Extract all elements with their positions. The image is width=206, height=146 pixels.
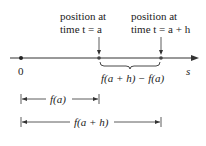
label-position-a-line2: time t = a: [60, 23, 102, 35]
axis-label: s: [186, 65, 190, 77]
down-arrow-icon: [97, 50, 101, 55]
point-a-dot: [97, 56, 101, 60]
fah-label: f(a + h): [74, 116, 108, 128]
down-arrow-icon: [159, 50, 163, 55]
label-position-a-line1: position at: [60, 10, 106, 22]
origin-label: 0: [18, 65, 24, 77]
difference-label: f(a + h) − f(a): [101, 72, 164, 84]
fa-label: f(a): [50, 93, 66, 105]
label-position-ah-line2: time t = a + h: [131, 23, 190, 35]
brace: [100, 62, 160, 69]
origin-dot: [19, 56, 23, 60]
point-a-plus-h-dot: [159, 56, 163, 60]
axis-arrow-icon: [191, 55, 199, 61]
label-position-ah-line1: position at: [131, 10, 177, 22]
